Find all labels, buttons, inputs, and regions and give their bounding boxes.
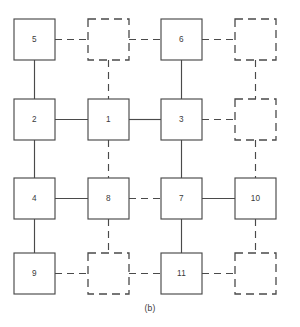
graph-node-8[interactable]: 8 [88, 178, 129, 219]
grid-graph-svg: 5621348710911 [0, 0, 300, 327]
node-label: 5 [32, 35, 37, 44]
graph-node-6[interactable]: 6 [161, 19, 202, 60]
edges-layer [35, 40, 256, 274]
node-box-dashed [235, 19, 276, 60]
graph-node-7[interactable]: 7 [161, 178, 202, 219]
node-label: 10 [251, 194, 261, 203]
graph-node-empty-r1c3[interactable] [235, 99, 276, 140]
node-label: 9 [32, 269, 37, 278]
graph-node-5[interactable]: 5 [14, 19, 55, 60]
node-label: 11 [177, 269, 186, 278]
node-box-dashed [88, 19, 129, 60]
graph-node-3[interactable]: 3 [161, 99, 202, 140]
node-label: 1 [106, 115, 111, 124]
graph-node-empty-r0c1[interactable] [88, 19, 129, 60]
graph-node-4[interactable]: 4 [14, 178, 55, 219]
node-box-dashed [88, 253, 129, 294]
node-label: 3 [179, 115, 184, 124]
node-label: 4 [32, 194, 37, 203]
node-box-dashed [235, 99, 276, 140]
figure-container: 5621348710911 (b) [0, 0, 300, 327]
graph-node-11[interactable]: 11 [161, 253, 202, 294]
node-label: 6 [179, 35, 184, 44]
graph-node-empty-r3c1[interactable] [88, 253, 129, 294]
graph-node-1[interactable]: 1 [88, 99, 129, 140]
node-label: 7 [179, 194, 184, 203]
figure-caption: (b) [0, 303, 300, 313]
node-label: 2 [32, 115, 37, 124]
node-box-dashed [235, 253, 276, 294]
nodes-layer: 5621348710911 [14, 19, 276, 294]
graph-node-empty-r0c3[interactable] [235, 19, 276, 60]
graph-node-empty-r3c3[interactable] [235, 253, 276, 294]
graph-node-10[interactable]: 10 [235, 178, 276, 219]
graph-node-2[interactable]: 2 [14, 99, 55, 140]
node-label: 8 [106, 194, 111, 203]
graph-node-9[interactable]: 9 [14, 253, 55, 294]
